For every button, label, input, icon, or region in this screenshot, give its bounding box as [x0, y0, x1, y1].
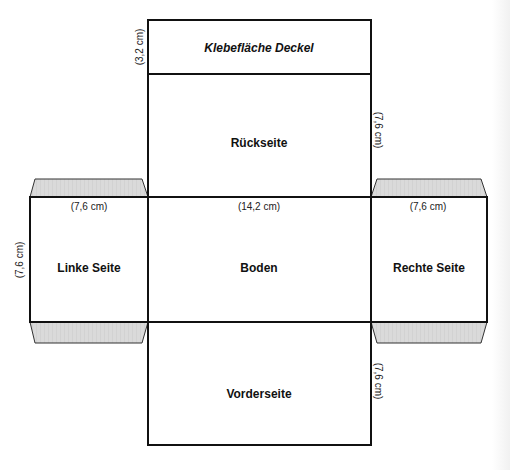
lid-flap-label: Klebefläche Deckel	[204, 41, 313, 55]
left-top-glue-tab	[30, 179, 148, 197]
bottom-top-dimension: (14,2 cm)	[238, 201, 280, 212]
back-label: Rückseite	[231, 136, 288, 150]
back-dimension: (7,6 cm)	[373, 112, 384, 149]
bottom-panel	[148, 197, 371, 322]
right-top-glue-tab	[371, 179, 487, 197]
left-side-dimension: (7,6 cm)	[14, 242, 25, 279]
right-bottom-glue-tab	[371, 322, 487, 343]
front-dimension: (7,6 cm)	[373, 363, 384, 400]
left-top-dimension: (7,6 cm)	[71, 201, 108, 212]
front-label: Vorderseite	[226, 387, 291, 401]
lid-flap-dimension: (3,2 cm)	[134, 29, 145, 66]
front-panel	[148, 322, 371, 445]
left-label: Linke Seite	[57, 261, 120, 275]
right-label: Rechte Seite	[393, 261, 465, 275]
bottom-label: Boden	[240, 261, 277, 275]
right-top-dimension: (7,6 cm)	[410, 201, 447, 212]
left-bottom-glue-tab	[30, 322, 148, 343]
right-panel	[371, 197, 487, 322]
left-panel	[30, 197, 148, 322]
